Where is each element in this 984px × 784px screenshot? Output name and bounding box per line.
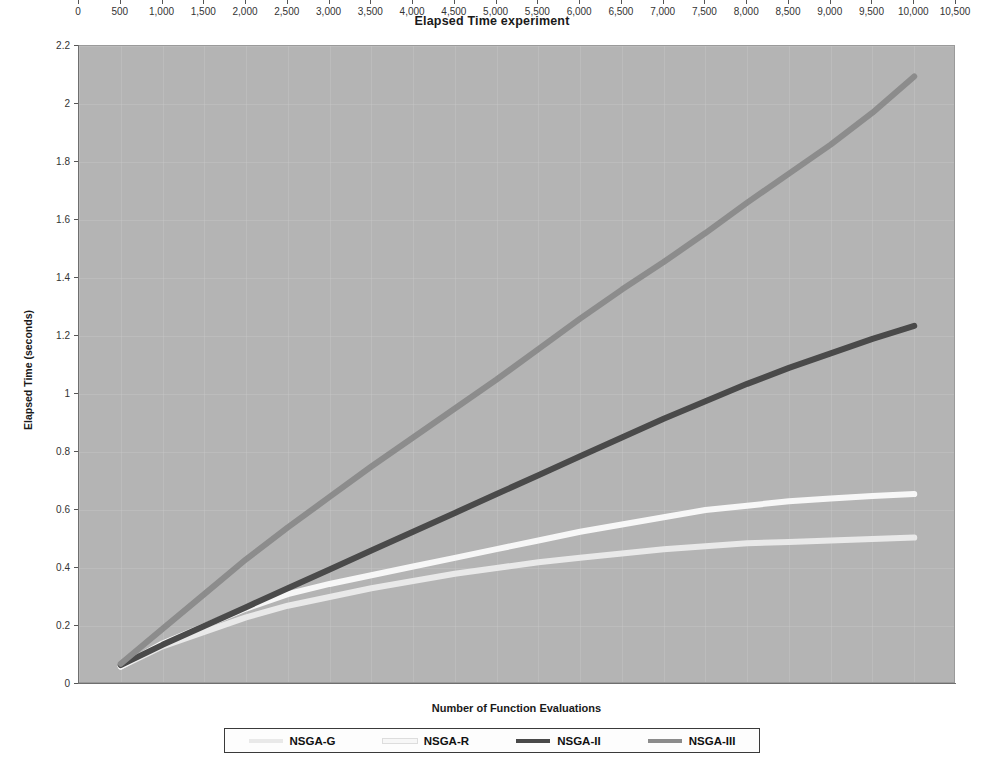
x-tick-mark <box>412 0 413 4</box>
y-tick-mark <box>74 161 78 162</box>
legend-item[interactable]: NSGA-R <box>379 735 473 747</box>
y-tick-mark <box>74 219 78 220</box>
legend-item[interactable]: NSGA-II <box>512 735 604 747</box>
x-tick-label: 9,500 <box>859 6 884 17</box>
legend-swatch-icon <box>648 739 682 743</box>
x-axis-line <box>78 683 956 684</box>
x-tick-mark <box>537 0 538 4</box>
y-axis-line <box>78 45 79 684</box>
x-tick-label: 7,500 <box>692 6 717 17</box>
y-tick-mark <box>74 625 78 626</box>
y-tick-mark <box>74 45 78 46</box>
x-axis-title: Number of Function Evaluations <box>78 702 955 714</box>
x-tick-label: 9,000 <box>817 6 842 17</box>
x-tick-label: 2,500 <box>274 6 299 17</box>
legend-swatch-icon <box>383 739 417 743</box>
y-tick-label: 0.6 <box>56 504 70 515</box>
legend-label: NSGA-R <box>424 735 469 747</box>
x-tick-label: 3,500 <box>358 6 383 17</box>
x-tick-label: 5,500 <box>525 6 550 17</box>
x-tick-label: 10,500 <box>940 6 971 17</box>
y-tick-label: 0.4 <box>56 562 70 573</box>
x-tick-mark <box>871 0 872 4</box>
y-tick-label: 2 <box>64 98 70 109</box>
legend-swatch-icon <box>516 739 550 743</box>
y-tick-label: 0.8 <box>56 446 70 457</box>
legend-label: NSGA-G <box>290 735 336 747</box>
y-tick-mark <box>74 393 78 394</box>
x-tick-label: 8,500 <box>775 6 800 17</box>
x-tick-mark <box>120 0 121 4</box>
y-tick-label: 1.6 <box>56 214 70 225</box>
x-tick-mark <box>746 0 747 4</box>
y-tick-label: 0.2 <box>56 620 70 631</box>
x-tick-label: 0 <box>75 6 81 17</box>
x-tick-mark <box>329 0 330 4</box>
x-tick-label: 7,000 <box>650 6 675 17</box>
x-tick-label: 3,000 <box>316 6 341 17</box>
y-tick-label: 1 <box>64 388 70 399</box>
x-tick-mark <box>913 0 914 4</box>
x-tick-label: 4,000 <box>400 6 425 17</box>
x-tick-label: 1,000 <box>149 6 174 17</box>
y-tick-label: 1.2 <box>56 330 70 341</box>
x-tick-label: 6,500 <box>608 6 633 17</box>
y-tick-label: 0 <box>64 678 70 689</box>
chart-legend: NSGA-GNSGA-RNSGA-IINSGA-III <box>224 728 760 753</box>
y-tick-label: 2.2 <box>56 40 70 51</box>
x-tick-label: 500 <box>111 6 128 17</box>
x-tick-mark <box>579 0 580 4</box>
y-tick-mark <box>74 451 78 452</box>
legend-item[interactable]: NSGA-III <box>644 735 740 747</box>
y-tick-label: 1.4 <box>56 272 70 283</box>
x-tick-label: 8,000 <box>734 6 759 17</box>
x-tick-mark <box>830 0 831 4</box>
legend-item[interactable]: NSGA-G <box>245 735 340 747</box>
x-tick-label: 1,500 <box>191 6 216 17</box>
x-tick-label: 6,000 <box>567 6 592 17</box>
x-tick-mark <box>162 0 163 4</box>
series-line-nsga-g <box>121 538 914 667</box>
x-tick-mark <box>454 0 455 4</box>
x-tick-mark <box>704 0 705 4</box>
y-axis-title: Elapsed Time (seconds) <box>22 280 34 460</box>
y-tick-mark <box>74 683 78 684</box>
legend-label: NSGA-III <box>689 735 736 747</box>
x-tick-mark <box>663 0 664 4</box>
x-tick-label: 2,000 <box>233 6 258 17</box>
series-line-nsga-iii <box>121 76 914 663</box>
x-tick-mark <box>78 0 79 4</box>
y-tick-mark <box>74 277 78 278</box>
elapsed-time-chart: Elapsed Time experiment 00.20.40.60.811.… <box>0 0 984 784</box>
x-tick-label: 4,500 <box>441 6 466 17</box>
x-tick-mark <box>788 0 789 4</box>
series-lines <box>79 46 955 683</box>
legend-swatch-icon <box>249 739 283 743</box>
y-tick-mark <box>74 567 78 568</box>
y-tick-label: 1.8 <box>56 156 70 167</box>
x-tick-label: 5,000 <box>483 6 508 17</box>
x-tick-mark <box>245 0 246 4</box>
x-tick-mark <box>621 0 622 4</box>
y-tick-mark <box>74 509 78 510</box>
x-tick-mark <box>955 0 956 4</box>
series-line-nsga-r <box>121 494 914 667</box>
x-tick-label: 10,000 <box>898 6 929 17</box>
legend-label: NSGA-II <box>557 735 600 747</box>
y-tick-mark <box>74 103 78 104</box>
plot-area <box>78 45 955 683</box>
y-tick-mark <box>74 335 78 336</box>
x-tick-mark <box>370 0 371 4</box>
x-tick-mark <box>496 0 497 4</box>
x-tick-mark <box>203 0 204 4</box>
x-tick-mark <box>287 0 288 4</box>
